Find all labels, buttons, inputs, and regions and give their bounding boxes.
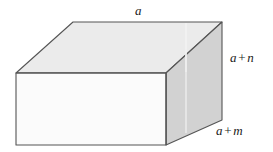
box-front-face: [16, 73, 166, 145]
figure-container: a a+n a+m: [0, 0, 273, 152]
label-right-vertical-edge: a+n: [230, 51, 254, 64]
label-right-vertical-edge-var2: n: [247, 50, 254, 65]
label-top-edge: a: [135, 4, 142, 17]
label-right-vertical-edge-operator: +: [237, 50, 248, 65]
label-depth-edge: a+m: [216, 124, 243, 137]
label-depth-edge-var2: m: [233, 123, 243, 138]
label-depth-edge-var1: a: [216, 123, 223, 138]
label-depth-edge-operator: +: [223, 123, 234, 138]
label-right-vertical-edge-var1: a: [230, 50, 237, 65]
label-top-edge-var: a: [135, 3, 142, 18]
